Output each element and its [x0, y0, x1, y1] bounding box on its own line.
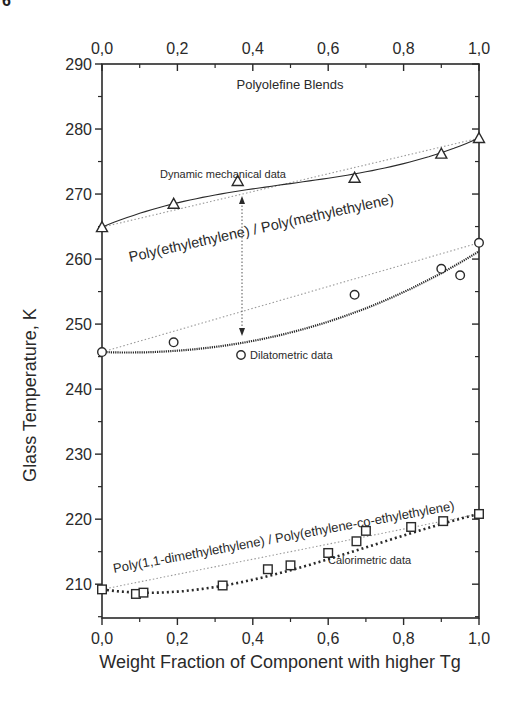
circle-marker-icon — [437, 265, 446, 274]
dilatometric-legend: Dilatometric data — [237, 349, 334, 361]
linear-reference-line — [102, 243, 479, 352]
x-tick-label: 0,0 — [91, 630, 113, 647]
glass-temperature-chart: 6 0,00,00,20,20,40,40,60,60,80,81,01,021… — [0, 0, 515, 706]
triangle-marker-icon — [349, 172, 360, 182]
square-marker-icon — [439, 517, 448, 526]
circle-marker-icon — [475, 239, 484, 248]
y-tick-label: 250 — [65, 316, 92, 333]
double-arrow — [239, 196, 245, 336]
arrow-down-head-icon — [239, 328, 245, 336]
square-marker-icon — [352, 537, 361, 546]
annotation-dilatometric: Dilatometric data — [250, 349, 333, 361]
x-top-tick-label: 0,2 — [166, 40, 188, 57]
x-tick-label: 1,0 — [468, 630, 490, 647]
linear-reference-lines — [102, 138, 479, 589]
x-axis-title: Weight Fraction of Component with higher… — [99, 652, 461, 672]
circle-marker-icon — [98, 348, 107, 357]
square-marker-icon — [218, 581, 227, 590]
axis-ticks: 0,00,00,20,20,40,40,60,60,80,81,01,02102… — [65, 40, 490, 647]
triangle-marker-icon — [474, 133, 485, 143]
y-tick-label: 220 — [65, 511, 92, 528]
annotation-calorimetric: Calorimetric data — [328, 554, 412, 566]
y-tick-label: 280 — [65, 121, 92, 138]
fit-curves — [102, 138, 479, 593]
circle-marker-icon — [169, 338, 178, 347]
x-tick-label: 0,8 — [392, 630, 414, 647]
y-tick-label: 260 — [65, 251, 92, 268]
circle-marker-icon — [456, 271, 465, 280]
annotation-blend-1: Poly(ethylethylene) / Poly(methylethylen… — [127, 191, 395, 265]
x-tick-label: 0,2 — [166, 630, 188, 647]
fit-curve-dilatometric — [102, 251, 479, 352]
square-marker-icon — [407, 523, 416, 532]
y-tick-label: 210 — [65, 576, 92, 593]
square-marker-icon — [139, 588, 148, 597]
circle-marker-icon — [350, 291, 359, 300]
annotation-dynamic-mechanical: Dynamic mechanical data — [160, 168, 287, 180]
x-tick-label: 0,6 — [317, 630, 339, 647]
x-top-tick-label: 0,0 — [91, 40, 113, 57]
square-marker-icon — [286, 561, 295, 570]
chart-title: Polyolefine Blends — [237, 77, 344, 92]
square-marker-icon — [98, 585, 107, 594]
y-tick-label: 240 — [65, 381, 92, 398]
x-tick-label: 0,4 — [242, 630, 264, 647]
y-tick-label: 270 — [65, 186, 92, 203]
x-top-tick-label: 0,6 — [317, 40, 339, 57]
y-axis-title: Glass Temperature, K — [20, 308, 40, 482]
square-marker-icon — [264, 565, 273, 574]
y-tick-label: 230 — [65, 446, 92, 463]
square-marker-icon — [475, 510, 484, 519]
x-top-tick-label: 1,0 — [468, 40, 490, 57]
circle-marker-icon — [237, 351, 245, 359]
triangle-marker-icon — [436, 148, 447, 158]
y-tick-label: 290 — [65, 56, 92, 73]
arrow-up-head-icon — [239, 196, 245, 204]
x-top-tick-label: 0,8 — [392, 40, 414, 57]
figure-number-fragment: 6 — [2, 0, 11, 9]
x-top-tick-label: 0,4 — [242, 40, 264, 57]
